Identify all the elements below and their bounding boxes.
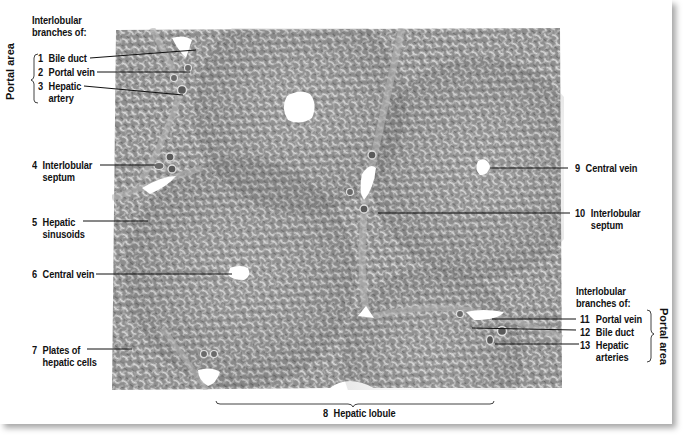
label-number: 10 (575, 207, 591, 219)
heading-line: branches of: (32, 26, 86, 38)
label-1-bile-duct: 1Bile duct (38, 52, 87, 64)
label-2-portal-vein: 2Portal vein (38, 66, 95, 78)
label-text: Hepatic (43, 216, 76, 228)
label-number: 12 (580, 326, 596, 338)
label-4-interlobular-septum: 4Interlobular septum (32, 159, 92, 183)
label-3-hepatic-artery: 3Hepatic artery (38, 80, 81, 104)
label-text: Bile duct (596, 326, 634, 338)
label-text: Plates of (43, 344, 81, 356)
label-number: 5 (32, 216, 43, 228)
label-text: arteries (580, 351, 629, 363)
heading-line: Interlobular (32, 14, 82, 26)
label-text: Portal vein (49, 66, 95, 78)
label-text: sinusoids (32, 228, 85, 240)
label-number: 6 (32, 268, 43, 280)
label-10-interlobular-septum: 10Interlobular septum (575, 207, 641, 231)
label-text: Hepatic (49, 80, 82, 92)
label-text: Central vein (586, 162, 638, 174)
label-9-central-vein: 9Central vein (575, 162, 637, 174)
label-number: 9 (575, 162, 586, 174)
right-portal-area-label: Portal area (658, 308, 670, 365)
label-number: 13 (580, 339, 596, 351)
label-text: Bile duct (49, 52, 87, 64)
label-text: hepatic cells (32, 356, 97, 368)
label-number: 1 (38, 52, 49, 64)
label-11-portal-vein: 11Portal vein (580, 313, 642, 325)
label-text: Interlobular (591, 207, 641, 219)
left-group-heading: Interlobular branches of: (32, 14, 86, 38)
label-7-plates-of-hepatic-cells: 7Plates of hepatic cells (32, 344, 97, 368)
label-text: septum (32, 171, 92, 183)
label-text: Hepatic (596, 339, 629, 351)
label-text: Portal vein (596, 313, 642, 325)
label-number: 4 (32, 159, 43, 171)
heading-line: Interlobular (576, 285, 626, 297)
label-number: 3 (38, 80, 49, 92)
label-text: Interlobular (43, 159, 93, 171)
label-6-central-vein: 6Central vein (32, 268, 94, 280)
label-text: Central vein (43, 268, 95, 280)
left-portal-area-label: Portal area (4, 43, 16, 100)
label-text: artery (38, 92, 81, 104)
label-13-hepatic-arteries: 13Hepatic arteries (580, 339, 629, 363)
label-text: Hepatic lobule (334, 407, 396, 419)
figure-card: Interlobular branches of: Portal area 1B… (0, 0, 672, 424)
label-5-hepatic-sinusoids: 5Hepatic sinusoids (32, 216, 85, 240)
label-number: 11 (580, 313, 596, 325)
heading-line: branches of: (576, 297, 630, 309)
label-12-bile-duct: 12Bile duct (580, 326, 634, 338)
label-8-hepatic-lobule: 8Hepatic lobule (323, 407, 395, 419)
label-text: septum (575, 219, 641, 231)
right-group-heading: Interlobular branches of: (576, 285, 630, 309)
label-number: 8 (323, 407, 334, 419)
label-number: 7 (32, 344, 43, 356)
label-number: 2 (38, 66, 49, 78)
